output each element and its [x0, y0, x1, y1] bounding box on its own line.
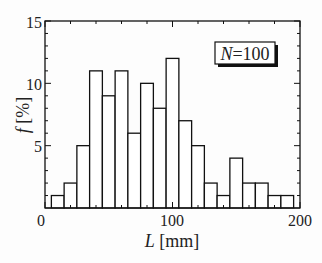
bars [51, 58, 293, 208]
y-axis-label: f [%] [13, 97, 33, 134]
y-tick-10: 10 [26, 76, 42, 93]
histogram-bar [77, 146, 90, 208]
x-axis-var: L [144, 231, 155, 251]
histogram-bar [102, 96, 115, 208]
svg-text:N=100: N=100 [219, 44, 269, 64]
x-tick-0: 0 [37, 212, 45, 229]
histogram-bar [51, 196, 64, 208]
histogram-bar [230, 158, 243, 208]
sample-size-annotation: N=100 [215, 42, 278, 67]
x-axis-label: L [mm] [144, 231, 200, 251]
y-tick-5: 5 [34, 138, 42, 155]
histogram-bar [90, 71, 103, 208]
histogram-bar [115, 71, 128, 208]
histogram-bar [192, 146, 205, 208]
histogram-bar [128, 133, 141, 208]
annotation-var: N [219, 44, 233, 64]
histogram-bar [255, 183, 268, 208]
histogram-bar [153, 108, 166, 208]
histogram-bar [243, 183, 256, 208]
annotation-value: =100 [232, 44, 269, 64]
x-axis-unit: [mm] [155, 231, 200, 251]
x-tick-100: 100 [160, 212, 184, 229]
histogram-bar [64, 183, 77, 208]
x-tick-200: 200 [288, 212, 312, 229]
histogram-bar [166, 58, 179, 208]
y-axis-unit: [%] [13, 97, 33, 128]
histogram-bar [204, 183, 217, 208]
histogram-bar [281, 196, 294, 208]
y-tick-15: 15 [26, 14, 42, 31]
histogram-bar [179, 121, 192, 208]
histogram-chart: 0 100 200 5 10 15 L [mm] f [%] N=100 [0, 0, 322, 263]
histogram-bar [141, 83, 154, 208]
